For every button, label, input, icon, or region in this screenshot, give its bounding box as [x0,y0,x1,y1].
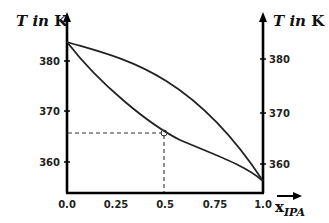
svg-text:T in K: T in K [273,12,325,30]
axes-frame [63,12,302,200]
bubble-point-curve [67,42,263,181]
x-tick-label: 1.0 [254,199,272,210]
left-y-axis-label: T in K [16,12,68,30]
x-direction-arrow-icon [293,192,302,200]
svg-text:T in K: T in K [16,12,68,30]
left-tick-label: 370 [39,106,60,117]
x-tick-label: 0.25 [104,199,129,210]
x-axis-label: xIPA [275,198,306,219]
left-y-ticks: 380 370 360 [39,56,70,168]
x-ticks: 0.0 0.25 0.5 0.75 1.0 [58,199,272,210]
right-tick-label: 370 [269,108,290,119]
x-tick-label: 0.5 [156,199,174,210]
right-y-ticks: 380 370 360 [260,54,290,170]
x-tick-label: 0.0 [58,199,76,210]
txy-diagram: 380 370 360 380 370 360 0.0 0.25 0.5 0.7… [0,0,329,223]
right-tick-label: 380 [269,54,290,65]
svg-text:xIPA: xIPA [275,198,306,219]
right-axis-arrow-icon [259,12,267,22]
left-tick-label: 380 [39,56,60,67]
left-tick-label: 360 [39,157,60,168]
right-y-axis-label: T in K [273,12,325,30]
dew-point-curve [67,42,263,181]
right-tick-label: 360 [269,159,290,170]
x-tick-label: 0.75 [203,199,228,210]
